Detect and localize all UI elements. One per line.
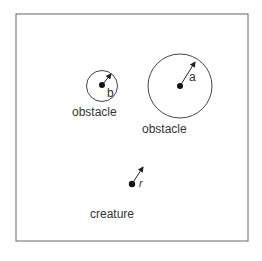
creature-label: creature: [90, 207, 134, 221]
creature: r creature: [90, 167, 144, 221]
diagram-canvas: b obstacle a obstacle r creature: [0, 0, 262, 261]
obstacle-small-label: obstacle: [72, 105, 117, 119]
obstacle-small-radius-arrow: [102, 74, 111, 85]
creature-radius-label: r: [139, 177, 144, 189]
obstacle-small-radius-label: b: [107, 86, 114, 100]
obstacle-large-radius-label: a: [189, 70, 196, 84]
obstacle-large: a obstacle: [142, 54, 212, 136]
obstacle-large-label: obstacle: [142, 122, 187, 136]
obstacle-small: b obstacle: [72, 71, 118, 120]
